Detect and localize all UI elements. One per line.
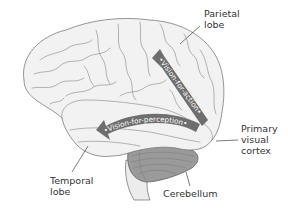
cerebrum (23, 18, 223, 156)
cerebellum-label: Cerebellum (163, 188, 217, 199)
parietal-lobe-label: Parietal lobe (204, 8, 240, 30)
cerebellum-leader-line (186, 172, 190, 186)
primary-visual-cortex-label: Primary visual cortex (241, 123, 278, 156)
temporal-leader-line (72, 146, 88, 172)
temporal-lobe-label: Temporal lobe (50, 175, 94, 197)
brain-diagram: •Vision-for-action• •Vision-for-percepti… (0, 0, 288, 213)
primary-visual-leader-line (216, 140, 238, 141)
